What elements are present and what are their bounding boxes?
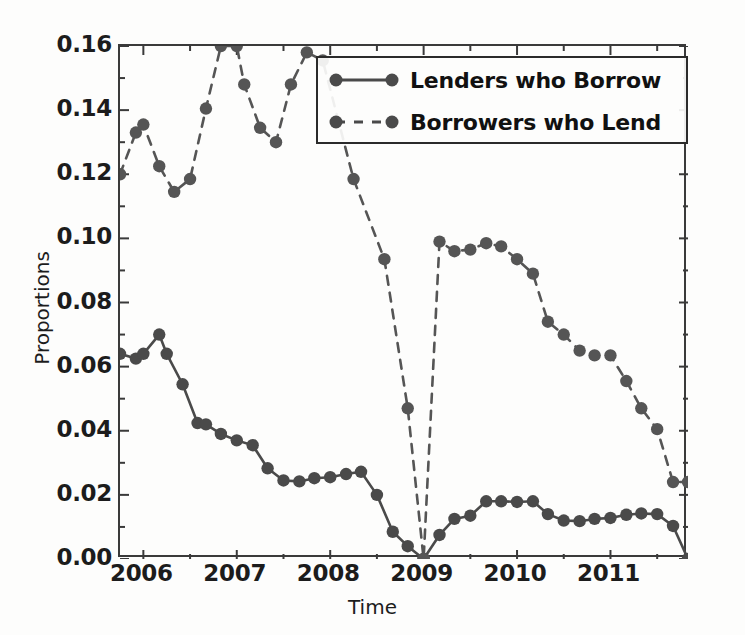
data-point-marker: [301, 46, 313, 58]
data-point-marker: [176, 378, 188, 390]
data-point-marker: [464, 243, 476, 255]
data-point-marker: [261, 462, 273, 474]
data-point-marker: [558, 514, 570, 526]
data-point-marker: [153, 328, 165, 340]
data-point-marker: [270, 136, 282, 148]
data-point-marker: [387, 526, 399, 538]
data-point-marker: [371, 489, 383, 501]
data-point-marker: [667, 476, 679, 488]
data-point-marker: [120, 168, 126, 180]
data-point-marker: [604, 512, 616, 524]
data-point-marker: [200, 418, 212, 430]
y-axis-tick-labels: 0.000.020.040.060.080.100.120.140.16: [0, 0, 112, 635]
y-tick-label-0.06: 0.06: [2, 352, 112, 378]
data-point-marker: [433, 529, 445, 541]
data-point-marker: [527, 267, 539, 279]
data-point-marker: [355, 466, 367, 478]
data-point-marker: [153, 160, 165, 172]
legend-entry-lenders-who-borrow: Lenders who Borrow: [318, 58, 690, 102]
data-point-marker: [448, 513, 460, 525]
data-point-marker: [200, 102, 212, 114]
data-point-marker: [573, 344, 585, 356]
data-point-marker: [511, 496, 523, 508]
y-tick-label-0.08: 0.08: [2, 288, 112, 314]
data-point-marker: [184, 173, 196, 185]
data-point-marker: [588, 349, 600, 361]
data-point-marker: [347, 173, 359, 185]
data-point-marker: [161, 348, 173, 360]
data-point-marker: [480, 495, 492, 507]
data-point-marker: [402, 540, 414, 552]
data-point-marker: [120, 348, 126, 360]
data-point-marker: [308, 472, 320, 484]
data-point-marker: [293, 475, 305, 487]
data-point-marker: [480, 237, 492, 249]
data-point-marker: [620, 509, 632, 521]
x-tick-label-2008: 2008: [297, 560, 360, 586]
data-point-marker: [511, 253, 523, 265]
data-point-marker: [588, 513, 600, 525]
data-point-marker: [635, 507, 647, 519]
data-point-marker: [527, 495, 539, 507]
chart-legend: Lenders who Borrow Borrowers who Lend: [316, 56, 688, 144]
chart-figure: 0.000.020.040.060.080.100.120.140.16 Pro…: [0, 0, 745, 635]
legend-label-lenders-who-borrow: Lenders who Borrow: [410, 68, 661, 93]
y-tick-label-0.12: 0.12: [2, 159, 112, 185]
x-tick-label-2010: 2010: [484, 560, 547, 586]
data-point-marker: [277, 474, 289, 486]
data-point-marker: [238, 78, 250, 90]
series-line-0: [120, 335, 688, 559]
data-point-marker: [573, 515, 585, 527]
legend-line-sample-dashed-icon: [318, 100, 410, 144]
legend-label-borrowers-who-lend: Borrowers who Lend: [410, 110, 661, 135]
data-point-marker: [542, 316, 554, 328]
data-point-marker: [433, 235, 445, 247]
x-tick-label-2011: 2011: [577, 560, 640, 586]
y-tick-label-0.04: 0.04: [2, 416, 112, 442]
data-point-marker: [168, 186, 180, 198]
legend-line-sample-solid-icon: [318, 58, 410, 102]
data-point-marker: [340, 468, 352, 480]
data-point-marker: [682, 553, 688, 559]
data-point-marker: [651, 508, 663, 520]
data-point-marker: [378, 253, 390, 265]
data-point-marker: [215, 46, 227, 52]
legend-entry-borrowers-who-lend: Borrowers who Lend: [318, 100, 690, 144]
data-point-marker: [448, 245, 460, 257]
data-point-marker: [402, 402, 414, 414]
x-tick-label-2006: 2006: [110, 560, 173, 586]
y-axis-label: Proportions: [30, 218, 54, 398]
x-tick-label-2007: 2007: [203, 560, 266, 586]
data-point-marker: [558, 328, 570, 340]
data-point-marker: [635, 402, 647, 414]
x-tick-label-2009: 2009: [390, 560, 453, 586]
data-point-marker: [542, 508, 554, 520]
data-point-marker: [620, 375, 632, 387]
x-axis-tick-labels: 200620072008200920102011: [0, 560, 745, 600]
y-tick-label-0.02: 0.02: [2, 480, 112, 506]
data-point-marker: [495, 240, 507, 252]
data-point-marker: [604, 349, 616, 361]
data-point-marker: [651, 423, 663, 435]
data-point-marker: [246, 439, 258, 451]
data-point-marker: [215, 428, 227, 440]
data-point-marker: [285, 78, 297, 90]
data-point-marker: [137, 118, 149, 130]
data-point-marker: [667, 520, 679, 532]
data-point-marker: [231, 46, 243, 52]
x-axis-label: Time: [0, 595, 745, 619]
data-point-marker: [231, 434, 243, 446]
y-tick-label-0.16: 0.16: [2, 31, 112, 57]
data-point-marker: [254, 122, 266, 134]
data-point-marker: [137, 348, 149, 360]
data-point-marker: [464, 510, 476, 522]
data-point-marker: [495, 495, 507, 507]
y-tick-label-0.14: 0.14: [2, 95, 112, 121]
data-point-marker: [324, 471, 336, 483]
data-point-marker: [682, 476, 688, 488]
y-tick-label-0.10: 0.10: [2, 223, 112, 249]
